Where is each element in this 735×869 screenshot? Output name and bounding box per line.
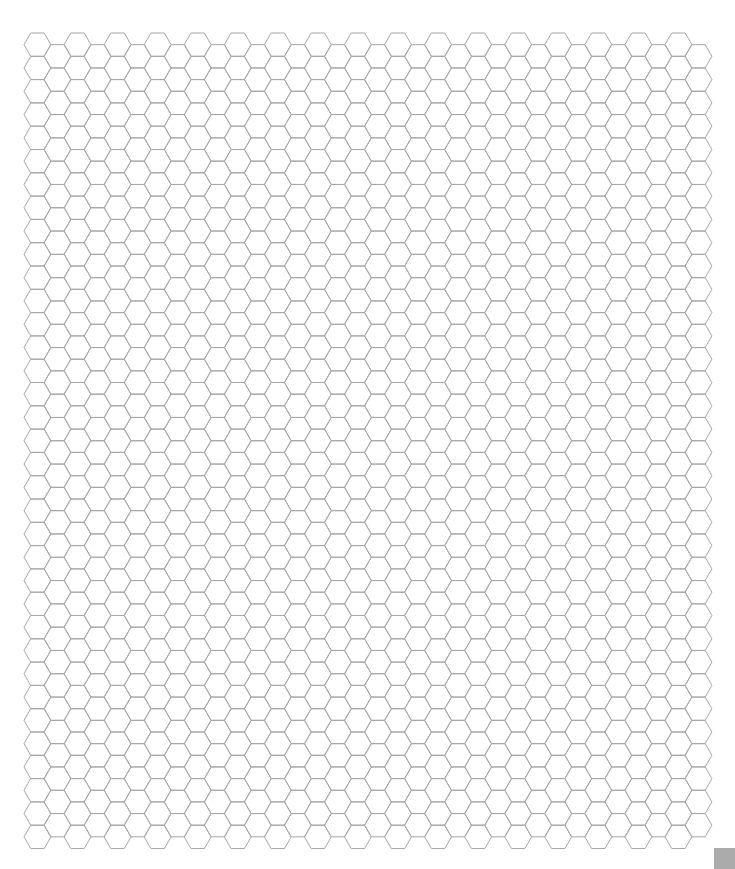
page-corner-marker [714, 848, 735, 869]
hex-paper-page: Hexagonal graph paper [0, 0, 735, 869]
hex-grid [0, 0, 735, 869]
hex-cells [24, 33, 712, 849]
